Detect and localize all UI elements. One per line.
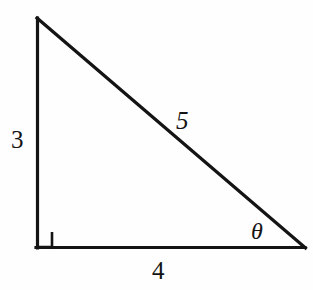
right-angle-marker-icon xyxy=(37,232,52,247)
side-label-horizontal-leg: 4 xyxy=(152,258,165,283)
right-triangle-figure: 3 5 4 θ xyxy=(0,0,313,290)
side-label-hypotenuse: 5 xyxy=(176,108,189,133)
side-label-vertical-leg: 3 xyxy=(11,127,24,152)
triangle-drawing xyxy=(0,0,313,290)
angle-label-theta: θ xyxy=(251,219,263,243)
side-hypotenuse xyxy=(37,18,306,248)
